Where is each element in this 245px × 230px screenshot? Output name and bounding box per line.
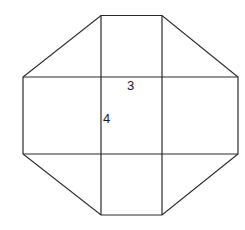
height-label: 4	[103, 111, 110, 126]
octagon-outline	[23, 16, 238, 216]
box-net-diagram: 3 4	[0, 0, 245, 230]
width-label: 3	[127, 78, 134, 93]
